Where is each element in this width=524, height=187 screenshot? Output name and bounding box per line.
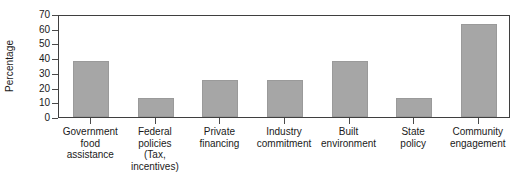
bar — [73, 61, 109, 117]
y-axis-tick-label: 30 — [28, 69, 50, 79]
bar — [267, 80, 303, 117]
x-axis-category-labels: GovernmentfoodassistanceFederalpolicies(… — [58, 126, 510, 186]
x-axis-tick-mark — [349, 118, 350, 124]
x-axis-tick-mark — [478, 118, 479, 124]
x-axis-category-label-line: Industry — [247, 126, 321, 138]
x-axis-tick-mark — [90, 118, 91, 124]
x-axis-category-label: Federalpolicies(Tax,incentives) — [118, 126, 192, 172]
x-axis-category-label: Statepolicy — [376, 126, 450, 149]
x-axis-category-label-line: Community — [441, 126, 515, 138]
x-axis-category-label-line: (Tax, — [118, 149, 192, 161]
x-axis-category-label-line: Built — [312, 126, 386, 138]
x-axis-tick-marks — [58, 118, 510, 124]
bar — [332, 61, 368, 117]
bar-chart: Percentage 010203040506070 Governmentfoo… — [0, 0, 524, 187]
x-axis-category-label: Industrycommitment — [247, 126, 321, 149]
y-axis-tick-labels: 010203040506070 — [28, 15, 50, 118]
x-axis-category-label-line: Private — [182, 126, 256, 138]
bars-container — [59, 16, 509, 117]
x-axis-tick-mark — [219, 118, 220, 124]
x-axis-category-label: Governmentfoodassistance — [53, 126, 127, 161]
bar — [202, 80, 238, 117]
x-axis-category-label-line: policies — [118, 138, 192, 150]
x-axis-category-label-line: commitment — [247, 138, 321, 150]
x-axis-category-label-line: financing — [182, 138, 256, 150]
x-axis-category-label-line: engagement — [441, 138, 515, 150]
bar — [138, 98, 174, 117]
bar — [396, 98, 432, 117]
y-axis-tick-label: 0 — [28, 113, 50, 123]
x-axis-category-label-line: environment — [312, 138, 386, 150]
x-axis-category-label: Communityengagement — [441, 126, 515, 149]
y-axis-tick-label: 40 — [28, 54, 50, 64]
x-axis-category-label-line: assistance — [53, 149, 127, 161]
plot-area — [58, 15, 510, 118]
y-axis-tick-label: 50 — [28, 39, 50, 49]
bar — [461, 24, 497, 117]
x-axis-category-label-line: State — [376, 126, 450, 138]
x-axis-category-label-line: Federal — [118, 126, 192, 138]
x-axis-tick-mark — [155, 118, 156, 124]
x-axis-category-label-line: Government — [53, 126, 127, 138]
x-axis-category-label-line: policy — [376, 138, 450, 150]
x-axis-category-label-line: food — [53, 138, 127, 150]
y-axis-tick-label: 10 — [28, 98, 50, 108]
x-axis-category-label: Privatefinancing — [182, 126, 256, 149]
x-axis-tick-mark — [284, 118, 285, 124]
x-axis-category-label-line: incentives) — [118, 161, 192, 173]
y-axis-tick-label: 70 — [28, 10, 50, 20]
y-axis-title: Percentage — [2, 14, 18, 118]
y-axis-tick-label: 20 — [28, 84, 50, 94]
x-axis-category-label: Builtenvironment — [312, 126, 386, 149]
y-axis-tick-label: 60 — [28, 25, 50, 35]
x-axis-tick-mark — [413, 118, 414, 124]
